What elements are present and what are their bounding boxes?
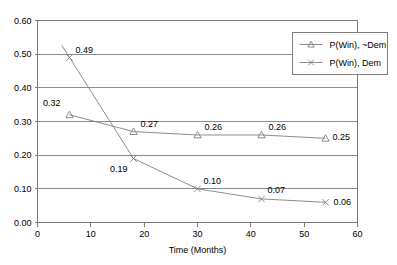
y-tick-label-0.60: 0.60 xyxy=(14,16,32,26)
y-tick-label-0.40: 0.40 xyxy=(14,83,32,93)
x-tick-label-40: 40 xyxy=(246,229,256,239)
x-tick-label-60: 60 xyxy=(352,229,362,239)
x-tick-label-20: 20 xyxy=(139,229,149,239)
data-label-1-1: 0.19 xyxy=(110,164,128,174)
x-tick-label-50: 50 xyxy=(299,229,309,239)
x-tick-label-30: 30 xyxy=(192,229,202,239)
legend-label-1: P(Win), Dem xyxy=(330,58,382,68)
y-tick-label-0.20: 0.20 xyxy=(14,150,32,160)
y-tick-label-0.50: 0.50 xyxy=(14,49,32,59)
data-label-0-2: 0.26 xyxy=(205,122,223,132)
data-label-0-1: 0.27 xyxy=(141,119,159,129)
data-label-1-4: 0.06 xyxy=(334,197,352,207)
chart-container: 0.000.100.200.300.400.500.60010203040506… xyxy=(0,0,397,265)
y-tick-label-0.10: 0.10 xyxy=(14,184,32,194)
data-label-1-3: 0.07 xyxy=(268,185,286,195)
legend-label-0: P(Win), ~Dem xyxy=(330,40,387,50)
data-label-1-0: 0.49 xyxy=(76,45,94,55)
line-chart: 0.000.100.200.300.400.500.60010203040506… xyxy=(0,0,397,265)
x-tick-label-0: 0 xyxy=(35,229,40,239)
x-axis-title: Time (Months) xyxy=(169,245,227,255)
y-tick-label-0.30: 0.30 xyxy=(14,117,32,127)
y-tick-label-0.00: 0.00 xyxy=(14,218,32,228)
x-tick-label-10: 10 xyxy=(86,229,96,239)
data-label-1-2: 0.10 xyxy=(204,176,222,186)
data-label-0-3: 0.26 xyxy=(269,122,287,132)
data-label-0-4: 0.25 xyxy=(333,132,351,142)
data-label-0-0: 0.32 xyxy=(43,98,61,108)
